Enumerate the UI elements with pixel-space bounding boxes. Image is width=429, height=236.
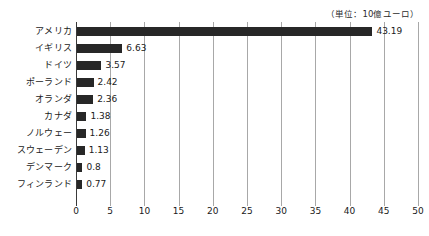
x-tick-0: 0 — [64, 206, 88, 216]
bar-row: スウェーデン1.13 — [0, 142, 429, 159]
bar-value-label: 2.36 — [97, 91, 117, 108]
category-label: オランダ — [0, 91, 72, 108]
bar-row: デンマーク0.8 — [0, 159, 429, 176]
bar-row: ポーランド2.42 — [0, 74, 429, 91]
bar-value-label: 6.63 — [126, 40, 146, 57]
category-label: スウェーデン — [0, 142, 72, 159]
bar — [77, 95, 93, 104]
bar-row: オランダ2.36 — [0, 91, 429, 108]
x-tick-40: 40 — [338, 206, 362, 216]
bar-row: ドイツ3.57 — [0, 57, 429, 74]
bar — [77, 44, 122, 53]
x-tick-5: 5 — [98, 206, 122, 216]
bar-value-label: 2.42 — [98, 74, 118, 91]
bar — [77, 61, 101, 70]
bar-row: アメリカ43.19 — [0, 23, 429, 40]
category-label: カナダ — [0, 108, 72, 125]
x-tick-50: 50 — [406, 206, 429, 216]
x-axis-tick-labels: 05101520253035404550 — [0, 206, 429, 220]
bar — [77, 146, 85, 155]
bar — [77, 78, 94, 87]
unit-caption: （単位：10億ユーロ） — [326, 7, 419, 19]
category-label: フィンランド — [0, 176, 72, 193]
category-label: ドイツ — [0, 57, 72, 74]
bar-row: カナダ1.38 — [0, 108, 429, 125]
bar — [77, 180, 82, 189]
bar-value-label: 1.26 — [90, 125, 110, 142]
bar-value-label: 1.13 — [89, 142, 109, 159]
category-label: イギリス — [0, 40, 72, 57]
bar — [77, 129, 86, 138]
bar — [77, 112, 86, 121]
bar-value-label: 1.38 — [90, 108, 110, 125]
x-tick-15: 15 — [167, 206, 191, 216]
category-label: アメリカ — [0, 23, 72, 40]
bar-row: フィンランド0.77 — [0, 176, 429, 193]
category-label: ノルウェー — [0, 125, 72, 142]
bar-value-label: 0.8 — [86, 159, 100, 176]
bar-value-label: 43.19 — [376, 23, 402, 40]
category-label: デンマーク — [0, 159, 72, 176]
bar-value-label: 0.77 — [86, 176, 106, 193]
bar-value-label: 3.57 — [105, 57, 125, 74]
x-tick-25: 25 — [235, 206, 259, 216]
category-label: ポーランド — [0, 74, 72, 91]
x-tick-20: 20 — [201, 206, 225, 216]
x-tick-35: 35 — [303, 206, 327, 216]
bar-chart: アメリカ43.19イギリス6.63ドイツ3.57ポーランド2.42オランダ2.3… — [0, 22, 429, 214]
x-tick-45: 45 — [372, 206, 396, 216]
x-tick-30: 30 — [269, 206, 293, 216]
bar — [77, 27, 372, 36]
bar-row: ノルウェー1.26 — [0, 125, 429, 142]
bar — [77, 163, 82, 172]
x-tick-10: 10 — [132, 206, 156, 216]
bar-row: イギリス6.63 — [0, 40, 429, 57]
